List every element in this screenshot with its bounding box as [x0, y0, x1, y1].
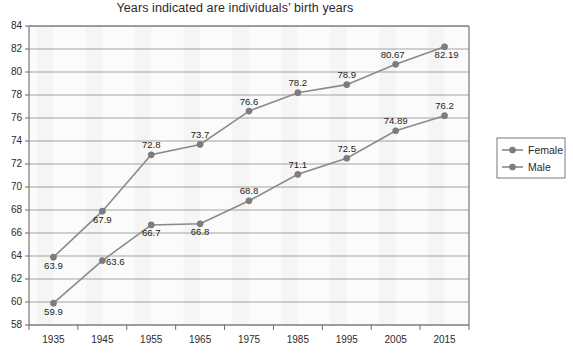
y-axis-tick-label: 68 [11, 204, 23, 215]
data-point-label: 74.89 [384, 115, 408, 126]
x-axis-tick-label: 1965 [189, 334, 212, 345]
y-axis-tick-label: 76 [11, 112, 23, 123]
data-point-marker [393, 128, 399, 134]
data-point-marker [295, 171, 301, 177]
y-axis-tick-label: 72 [11, 158, 23, 169]
plot-area-container: 5860626466687072747678808284193519451955… [0, 0, 573, 356]
data-point-marker [393, 61, 399, 67]
background-band [37, 26, 54, 325]
data-point-label: 80.67 [381, 49, 405, 60]
data-point-marker [99, 258, 105, 264]
data-point-label: 72.5 [337, 143, 356, 154]
y-axis-tick-label: 80 [11, 66, 23, 77]
data-point-label: 73.7 [191, 129, 210, 140]
x-axis-tick-label: 1985 [287, 334, 310, 345]
y-axis-tick-label: 84 [11, 20, 23, 31]
chart-figure: Years indicated are individuals’ birth y… [0, 0, 573, 356]
x-axis-tick-label: 1995 [336, 334, 359, 345]
data-point-label: 71.1 [289, 159, 308, 170]
background-band [232, 26, 249, 325]
data-point-label: 59.9 [44, 306, 63, 317]
data-point-label: 78.9 [337, 69, 356, 80]
legend-label-male: Male [528, 161, 551, 173]
background-band [183, 26, 200, 325]
x-axis-tick-label: 2015 [433, 334, 456, 345]
y-axis-tick-label: 58 [11, 319, 23, 330]
data-point-marker [246, 198, 252, 204]
y-axis-tick-label: 70 [11, 181, 23, 192]
data-point-label: 76.6 [240, 96, 259, 107]
legend-marker-female [509, 147, 515, 153]
legend-marker-male [509, 164, 515, 170]
y-axis-tick-label: 74 [11, 135, 23, 146]
data-point-label: 72.8 [142, 139, 161, 150]
data-point-label: 68.8 [240, 185, 259, 196]
x-axis-tick-label: 1955 [140, 334, 163, 345]
data-point-label: 78.2 [289, 77, 308, 88]
data-point-label: 63.9 [44, 260, 63, 271]
data-point-label: 76.2 [435, 100, 454, 111]
y-axis-tick-label: 82 [11, 43, 23, 54]
data-point-label: 66.8 [191, 226, 210, 237]
data-point-marker [344, 155, 350, 161]
y-axis-tick-label: 64 [11, 250, 23, 261]
data-point-marker [295, 90, 301, 96]
background-band [86, 26, 103, 325]
data-point-label: 82.19 [435, 49, 459, 60]
data-point-label: 67.9 [93, 214, 112, 225]
y-axis-tick-label: 60 [11, 296, 23, 307]
data-point-marker [344, 82, 350, 88]
x-axis-tick-label: 1945 [91, 334, 114, 345]
x-axis-tick-label: 2005 [385, 334, 408, 345]
background-band [135, 26, 152, 325]
data-point-marker [148, 152, 154, 158]
data-point-marker [246, 108, 252, 114]
legend-label-female: Female [528, 144, 563, 156]
background-band [428, 26, 445, 325]
y-axis-tick-label: 66 [11, 227, 23, 238]
data-point-label: 66.7 [142, 227, 161, 238]
data-point-marker [197, 141, 203, 147]
x-axis-tick-label: 1975 [238, 334, 261, 345]
data-point-label: 63.6 [106, 256, 125, 267]
data-point-marker [441, 113, 447, 119]
y-axis-tick-label: 62 [11, 273, 23, 284]
y-axis-tick-label: 78 [11, 89, 23, 100]
x-axis-tick-label: 1935 [42, 334, 65, 345]
line-chart-svg: 5860626466687072747678808284193519451955… [0, 0, 573, 356]
